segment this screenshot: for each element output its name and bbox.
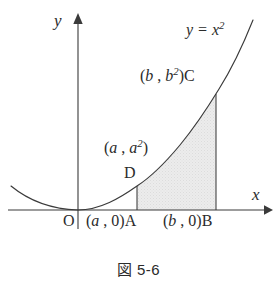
point-b-name: B xyxy=(202,212,213,229)
x-axis-label: x xyxy=(252,186,260,203)
point-c-name: C xyxy=(184,67,195,84)
point-d-separator: , xyxy=(117,139,129,156)
point-a-name: A xyxy=(125,212,137,229)
figure-container: y x y = x2 (b , b2)C (a , a2) D O (a , 0… xyxy=(0,0,277,291)
origin-label: O xyxy=(63,213,75,229)
point-d-coordinate-label: (a , a2) xyxy=(104,138,148,156)
curve-equation-exponent: 2 xyxy=(219,19,224,31)
point-c-separator: , xyxy=(153,67,165,84)
point-d-paren-close: ) xyxy=(143,139,148,156)
figure-caption: 図 5-6 xyxy=(0,258,277,279)
x-axis-arrow-icon xyxy=(264,205,273,215)
point-c-label: (b , b2)C xyxy=(140,66,195,84)
point-a-label: (a , 0)A xyxy=(86,213,136,229)
point-b-separator: , xyxy=(176,212,188,229)
curve-equation-text: y = x xyxy=(186,21,219,38)
parabola-curve xyxy=(11,20,253,210)
point-a-separator: , xyxy=(99,212,111,229)
point-d-name-label: D xyxy=(124,165,136,181)
y-axis-label: y xyxy=(54,12,62,29)
y-axis-arrow-icon xyxy=(73,13,82,24)
point-b-label: (b , 0)B xyxy=(163,213,212,229)
curve-equation-label: y = x2 xyxy=(186,20,224,38)
